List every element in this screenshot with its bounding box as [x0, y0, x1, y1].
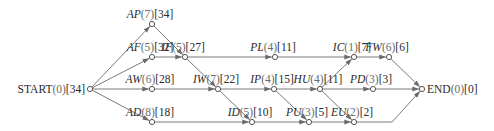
activity-value: [27]: [186, 41, 205, 53]
activity-value: [11]: [324, 73, 343, 85]
activity-duration: (5): [172, 41, 186, 54]
node-label-pl: PL(4)[11]: [249, 41, 296, 54]
node-aw: [149, 86, 154, 91]
activity-name: END: [427, 83, 451, 95]
activity-name: AF: [126, 41, 142, 53]
activity-value: [2]: [360, 106, 373, 118]
activity-value: [34]: [66, 83, 85, 95]
activity-duration: (8): [141, 106, 155, 119]
node-label-end: END(0)[0]: [427, 83, 477, 96]
node-label-iw: IW(7)[22]: [192, 73, 239, 86]
activity-network-diagram: START(0)[34]AP(7)[34]AF(5)[32]AW(6)[28]A…: [0, 0, 494, 131]
activity-name: HU: [293, 73, 311, 85]
node-ad: [149, 119, 154, 124]
activity-value: [6]: [395, 41, 408, 53]
node-af: [149, 54, 154, 59]
activity-value: [3]: [379, 73, 392, 85]
node-label-start: START(0)[34]: [18, 83, 85, 96]
labels-layer: START(0)[34]AP(7)[34]AF(5)[32]AW(6)[28]A…: [18, 8, 478, 119]
activity-name: START: [18, 83, 53, 95]
node-label-fw: FW(6)[6]: [364, 41, 408, 54]
activity-duration: (7): [141, 8, 155, 21]
node-fw: [386, 54, 391, 59]
node-iw: [215, 86, 220, 91]
node-id: [249, 119, 254, 124]
activity-duration: (6): [142, 73, 156, 86]
node-pl: [272, 54, 277, 59]
activity-name: PD: [349, 73, 366, 85]
activity-value: [0]: [464, 83, 477, 95]
node-label-hu: HU(4)[11]: [293, 73, 343, 86]
node-label-eu: EU(2)[2]: [330, 106, 373, 119]
node-eu: [351, 119, 356, 124]
activity-duration: (3): [365, 73, 379, 86]
activity-value: [10]: [253, 106, 272, 118]
activity-name: PU: [285, 106, 302, 118]
activity-duration: (5): [141, 41, 155, 54]
node-pd: [370, 86, 375, 91]
activity-name: FW: [364, 41, 383, 53]
node-label-if: IF(5)[27]: [160, 41, 204, 54]
node-ap: [149, 21, 154, 26]
activity-name: AD: [125, 106, 142, 118]
activity-value: [11]: [277, 41, 296, 53]
activity-duration: (2): [346, 106, 360, 119]
activity-duration: (6): [382, 41, 396, 54]
activity-name: ID: [227, 106, 241, 118]
activity-name: PL: [249, 41, 263, 53]
node-label-ip: IP(4)[15]: [249, 73, 293, 86]
node-ip: [271, 86, 276, 91]
node-ic: [351, 54, 356, 59]
node-label-pd: PD(3)[3]: [349, 73, 392, 86]
activity-duration: (4): [264, 41, 278, 54]
node-label-pu: PU(3)[5]: [285, 106, 328, 119]
activity-duration: (5): [240, 106, 254, 119]
activity-duration: (4): [261, 73, 275, 86]
activity-value: [28]: [155, 73, 174, 85]
activity-duration: (1): [344, 41, 358, 54]
activity-duration: (3): [301, 106, 315, 119]
node-label-ap: AP(7)[34]: [126, 8, 174, 21]
node-label-ad: AD(8)[18]: [125, 106, 174, 119]
activity-name: IP: [249, 73, 261, 85]
activity-duration: (7): [206, 73, 220, 86]
activity-value: [22]: [220, 73, 239, 85]
edge-fw-to-end: [391, 59, 420, 87]
node-end: [419, 86, 424, 91]
node-start: [87, 86, 92, 91]
activity-name: AP: [126, 8, 141, 20]
node-pu: [306, 119, 311, 124]
activity-value: [34]: [154, 8, 173, 20]
node-label-id: ID(5)[10]: [227, 106, 273, 119]
activity-value: [15]: [275, 73, 294, 85]
activity-name: IC: [332, 41, 345, 53]
node-hu: [317, 86, 322, 91]
activity-duration: (0): [52, 83, 66, 96]
activity-value: [5]: [315, 106, 328, 118]
activity-value: [18]: [155, 106, 174, 118]
activity-duration: (4): [310, 73, 324, 86]
activity-name: AW: [125, 73, 144, 85]
node-label-aw: AW(6)[28]: [125, 73, 175, 86]
node-if: [182, 54, 187, 59]
activity-duration: (0): [451, 83, 465, 96]
activity-name: EU: [330, 106, 347, 118]
